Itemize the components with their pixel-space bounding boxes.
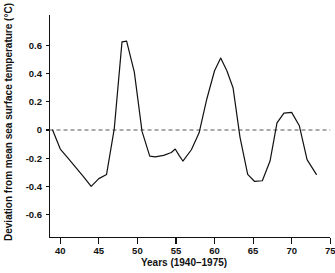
y-axis-ticks xyxy=(46,45,50,214)
y-tick-label: 0 xyxy=(37,124,42,135)
x-tick-label: 55 xyxy=(171,245,182,256)
x-tick-label: 70 xyxy=(286,245,297,256)
y-tick-label: 0.6 xyxy=(29,40,42,51)
chart-container: Deviation from mean sea surface temperat… xyxy=(0,0,335,273)
x-tick-label: 65 xyxy=(248,245,259,256)
sea-surface-temperature-line-chart: Deviation from mean sea surface temperat… xyxy=(0,0,335,273)
y-tick-label: 0.4 xyxy=(29,68,43,79)
x-tick-label: 50 xyxy=(132,245,143,256)
x-tick-label: 60 xyxy=(209,245,220,256)
x-axis-ticks xyxy=(60,238,330,244)
y-tick-label: -0.4 xyxy=(26,181,43,192)
temperature-deviation-line xyxy=(53,41,317,186)
y-tick-label: 0.2 xyxy=(29,96,42,107)
x-tick-label: 40 xyxy=(55,245,66,256)
y-axis-tick-labels: 0.6 0.4 0.2 0 -0.2 -0.4 -0.6 xyxy=(26,40,43,220)
x-tick-label: 45 xyxy=(94,245,105,256)
y-tick-label: -0.2 xyxy=(26,153,42,164)
x-axis-tick-labels: 40 45 50 55 60 65 70 75 xyxy=(55,245,335,256)
x-axis-title: Years (1940–1975) xyxy=(141,257,227,268)
x-tick-label: 75 xyxy=(325,245,335,256)
y-axis-title: Deviation from mean sea surface temperat… xyxy=(3,3,14,241)
y-tick-label: -0.6 xyxy=(26,209,42,220)
